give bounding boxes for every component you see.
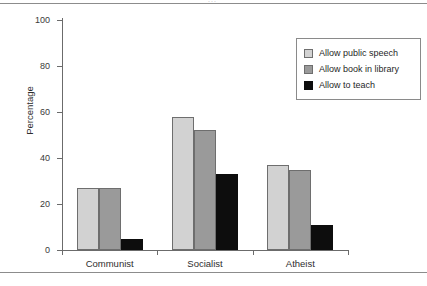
- clipped-header-text: ...: [208, 0, 238, 2]
- legend-swatch-icon-series-2: [304, 81, 313, 90]
- bar-socialist-series-1: [194, 130, 216, 250]
- bar-communist-series-1: [99, 188, 121, 250]
- legend-item-allow-to-teach: Allow to teach: [304, 77, 414, 93]
- y-tick-label-40: 40: [8, 154, 50, 163]
- top-divider-rule: [0, 3, 427, 4]
- x-category-label-communist: Communist: [86, 258, 134, 269]
- y-tick-label-0: 0: [8, 246, 50, 255]
- y-tick-label-100: 100: [8, 16, 50, 25]
- legend-item-allow-public-speech: Allow public speech: [304, 45, 414, 61]
- legend-label-series-0: Allow public speech: [319, 49, 398, 58]
- x-tick-0: [62, 250, 63, 255]
- bar-atheist-series-2: [311, 225, 333, 250]
- y-tick-label-60: 60: [8, 108, 50, 117]
- x-axis-line: [62, 250, 349, 251]
- bottom-divider-rule: [0, 272, 427, 273]
- bar-atheist-series-1: [289, 170, 311, 251]
- chart-figure: ... Percentage 020406080100 CommunistSoc…: [0, 0, 427, 286]
- bar-communist-series-0: [77, 188, 99, 250]
- x-category-label-atheist: Atheist: [286, 258, 315, 269]
- legend-swatch-icon-series-1: [304, 65, 313, 74]
- bar-communist-series-2: [121, 239, 143, 251]
- x-tick-2: [253, 250, 254, 255]
- legend-swatch-icon-series-0: [304, 49, 313, 58]
- bar-socialist-series-2: [216, 174, 238, 250]
- legend-label-series-1: Allow book in library: [319, 65, 399, 74]
- bar-socialist-series-0: [172, 117, 194, 250]
- chart-legend: Allow public speech Allow book in librar…: [296, 38, 421, 100]
- x-tick-end: [348, 250, 349, 255]
- x-category-label-socialist: Socialist: [187, 258, 222, 269]
- y-tick-label-20: 20: [8, 200, 50, 209]
- bar-atheist-series-0: [267, 165, 289, 250]
- y-tick-label-80: 80: [8, 62, 50, 71]
- x-tick-1: [157, 250, 158, 255]
- legend-item-allow-book-in-library: Allow book in library: [304, 61, 414, 77]
- legend-label-series-2: Allow to teach: [319, 81, 375, 90]
